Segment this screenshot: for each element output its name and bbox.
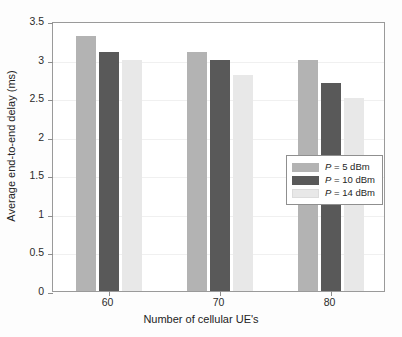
legend-label-series-1: P = 5 dBm — [325, 162, 370, 172]
y-tick-label: 0 — [4, 286, 44, 297]
legend-label-series-2: P = 10 dBm — [325, 175, 375, 185]
y-tick-mark — [48, 23, 53, 24]
y-tick-label: 0.5 — [4, 247, 44, 258]
bar — [187, 52, 207, 291]
y-tick-mark — [48, 139, 53, 140]
legend-label-series-3: P = 14 dBm — [325, 188, 375, 198]
y-tick-mark — [48, 100, 53, 101]
bar — [210, 60, 230, 291]
bar — [76, 36, 96, 291]
y-tick-mark — [48, 293, 53, 294]
y-tick-mark — [48, 177, 53, 178]
legend-item: P = 10 dBm — [292, 174, 377, 186]
legend-swatch-series-1 — [292, 163, 319, 172]
y-tick-mark — [48, 216, 53, 217]
y-tick-label: 3.5 — [4, 16, 44, 27]
y-tick-label: 2.5 — [4, 93, 44, 104]
x-axis-title: Number of cellular UE's — [0, 313, 402, 325]
figure-canvas: Average end-to-end delay (ms) 00.511.522… — [0, 0, 402, 337]
legend-item: P = 5 dBm — [292, 161, 377, 173]
x-tick-label: 70 — [199, 297, 239, 308]
y-tick-label: 3 — [4, 55, 44, 66]
legend-item: P = 14 dBm — [292, 187, 377, 199]
y-tick-mark — [48, 62, 53, 63]
x-tick-label: 60 — [88, 297, 128, 308]
bar — [233, 75, 253, 291]
legend-swatch-series-3 — [292, 189, 319, 198]
y-tick-label: 1.5 — [4, 170, 44, 181]
legend: P = 5 dBm P = 10 dBm P = 14 dBm — [286, 155, 383, 205]
bar — [122, 60, 142, 291]
y-tick-label: 2 — [4, 132, 44, 143]
bar — [99, 52, 119, 291]
legend-swatch-series-2 — [292, 176, 319, 185]
x-tick-label: 80 — [310, 297, 350, 308]
y-tick-label: 1 — [4, 209, 44, 220]
y-tick-mark — [48, 254, 53, 255]
